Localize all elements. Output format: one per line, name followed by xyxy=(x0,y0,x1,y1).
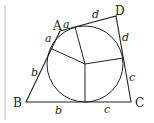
tangent-label-c-right: c xyxy=(129,71,135,84)
vertex-label-a: A xyxy=(52,19,62,33)
radius-to-ad xyxy=(75,27,85,64)
tangent-label-d-top: d xyxy=(92,8,99,21)
radius-to-cd xyxy=(85,58,123,64)
tangent-label-a-top: a xyxy=(63,18,70,31)
tangent-label-c-bottom: c xyxy=(104,103,110,116)
tangent-label-b-left: b xyxy=(31,66,38,79)
tangent-label-d-right: d xyxy=(122,31,129,44)
tangent-label-b-bottom: b xyxy=(55,104,62,117)
vertex-label-c: C xyxy=(135,96,144,110)
vertex-label-d: D xyxy=(115,4,125,18)
quadrilateral-diagram: A B C D a a b b c c d d xyxy=(0,0,154,123)
tangent-label-a-left: a xyxy=(45,32,52,45)
radius-to-ab xyxy=(50,48,85,64)
vertex-label-b: B xyxy=(13,96,22,110)
